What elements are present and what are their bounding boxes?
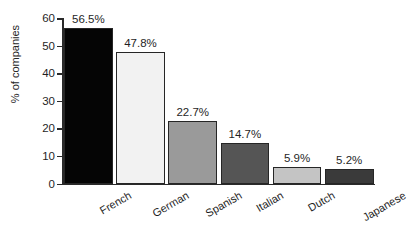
x-axis-line [62,184,375,186]
y-tick-label: 20 [42,122,55,134]
y-tick-mark [57,156,62,158]
y-tick-label: 50 [42,40,55,52]
x-tick-label-italian: Italian [254,189,285,214]
y-tick-label: 30 [42,95,55,107]
y-tick-mark [57,184,62,186]
bar-value-label: 5.9% [284,152,310,164]
y-tick-label: 40 [42,67,55,79]
bar-spanish[interactable] [168,121,217,184]
x-tick-label-japanese: Japanese [360,189,407,223]
bar-dutch[interactable] [273,167,322,183]
bar-japanese[interactable] [325,169,374,183]
bar-french[interactable] [64,28,113,184]
bar-slot: 56.5% [64,18,113,184]
x-tick-label-german: German [151,189,191,219]
bar-value-label: 47.8% [124,37,157,49]
bar-slot: 14.7% [221,18,270,184]
plot-area: 0102030405060 56.5%47.8%22.7%14.7%5.9%5.… [62,18,375,185]
y-tick-mark [57,128,62,130]
y-tick-label: 0 [49,178,55,190]
x-tick-label-french: French [98,189,134,217]
y-tick-label: 60 [42,12,55,24]
bar-slot: 5.2% [325,18,374,184]
y-tick-mark [57,18,62,20]
bar-value-label: 22.7% [176,106,209,118]
bar-slot: 47.8% [116,18,165,184]
y-tick-mark [57,46,62,48]
bar-german[interactable] [116,52,165,184]
bar-value-label: 14.7% [229,128,262,140]
bar-slot: 22.7% [168,18,217,184]
y-axis-label: % of companies [9,9,21,119]
x-tick-label-dutch: Dutch [306,189,337,214]
bar-slot: 5.9% [273,18,322,184]
bar-value-label: 56.5% [72,13,105,25]
x-tick-label-spanish: Spanish [203,189,243,219]
bar-series: 56.5%47.8%22.7%14.7%5.9%5.2% [64,18,375,184]
y-tick-mark [57,73,62,75]
x-axis-categories: FrenchGermanSpanishItalianDutchJapanese [62,189,375,234]
bar-italian[interactable] [221,143,270,184]
y-tick-label: 10 [42,150,55,162]
y-tick-mark [57,101,62,103]
bar-value-label: 5.2% [336,154,362,166]
